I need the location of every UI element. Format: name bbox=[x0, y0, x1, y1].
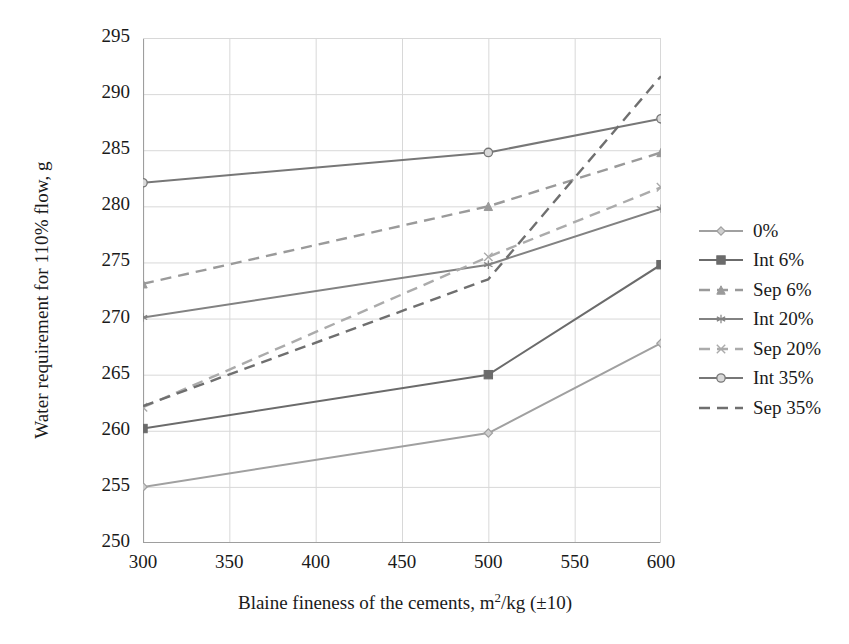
legend-swatch-cross-icon bbox=[698, 340, 744, 358]
legend-item-sep-35[interactable]: Sep 35% bbox=[698, 393, 846, 423]
data-point-marker bbox=[717, 227, 725, 235]
legend-swatch-square-icon bbox=[698, 251, 744, 269]
legend-item-sep-20[interactable]: Sep 20% bbox=[698, 334, 846, 364]
data-point-marker bbox=[143, 424, 147, 432]
legend-item-0[interactable]: 0% bbox=[698, 216, 846, 246]
legend-swatch-diamond-icon bbox=[698, 222, 744, 240]
legend-label: Sep 20% bbox=[753, 338, 821, 360]
y-axis-tick-label: 270 bbox=[78, 306, 130, 328]
data-point-marker bbox=[717, 374, 725, 382]
legend-label: Sep 6% bbox=[753, 279, 812, 301]
legend-label: Int 35% bbox=[753, 367, 814, 389]
legend-swatch-triangle-icon bbox=[698, 281, 744, 299]
y-axis-tick-label: 280 bbox=[78, 193, 130, 215]
legend-label: 0% bbox=[753, 220, 778, 242]
data-point-marker bbox=[484, 429, 492, 437]
legend-swatch-none-icon bbox=[698, 399, 744, 417]
legend-item-int-20[interactable]: Int 20% bbox=[698, 305, 846, 335]
data-point-marker bbox=[143, 483, 147, 491]
plot-svg bbox=[143, 38, 661, 543]
y-axis-tick-label: 275 bbox=[78, 249, 130, 271]
x-axis-tick-label: 600 bbox=[631, 551, 691, 573]
legend-item-int-6[interactable]: Int 6% bbox=[698, 246, 846, 276]
y-axis-title: Water requirement for 110% flow, g bbox=[22, 20, 62, 580]
legend-item-sep-6[interactable]: Sep 6% bbox=[698, 275, 846, 305]
chart-figure: Water requirement for 110% flow, g Blain… bbox=[0, 0, 849, 644]
y-axis-tick-label: 290 bbox=[78, 81, 130, 103]
legend-label: Int 20% bbox=[753, 308, 814, 330]
x-axis-tick-label: 300 bbox=[113, 551, 173, 573]
data-point-marker bbox=[143, 179, 147, 187]
legend-swatch-star-icon bbox=[698, 310, 744, 328]
x-axis-tick-label: 350 bbox=[199, 551, 259, 573]
legend-label: Int 6% bbox=[753, 249, 804, 271]
legend-swatch-circle-icon bbox=[698, 369, 744, 387]
data-point-marker bbox=[657, 115, 661, 123]
data-point-marker bbox=[717, 256, 725, 264]
x-axis-tick-label: 400 bbox=[286, 551, 346, 573]
x-axis-title-post: /kg (±10) bbox=[501, 592, 572, 613]
x-axis-title: Blaine fineness of the cements, m2/kg (±… bbox=[135, 592, 675, 614]
x-axis-title-pre: Blaine fineness of the cements, m bbox=[238, 592, 494, 613]
y-axis-tick-label: 265 bbox=[78, 362, 130, 384]
y-axis-tick-label: 250 bbox=[78, 530, 130, 552]
y-axis-tick-label: 260 bbox=[78, 418, 130, 440]
legend-item-int-35[interactable]: Int 35% bbox=[698, 364, 846, 394]
plot-area bbox=[143, 38, 661, 543]
x-axis-tick-label: 550 bbox=[545, 551, 605, 573]
legend-label: Sep 35% bbox=[753, 397, 821, 419]
data-point-marker bbox=[657, 260, 661, 268]
y-axis-tick-label: 295 bbox=[78, 25, 130, 47]
x-axis-tick-label: 450 bbox=[372, 551, 432, 573]
data-point-marker bbox=[484, 370, 492, 378]
chart-legend: 0%Int 6%Sep 6%Int 20%Sep 20%Int 35%Sep 3… bbox=[698, 216, 846, 423]
data-point-marker bbox=[484, 148, 492, 156]
y-axis-tick-label: 255 bbox=[78, 474, 130, 496]
x-axis-tick-label: 500 bbox=[458, 551, 518, 573]
y-axis-tick-label: 285 bbox=[78, 137, 130, 159]
